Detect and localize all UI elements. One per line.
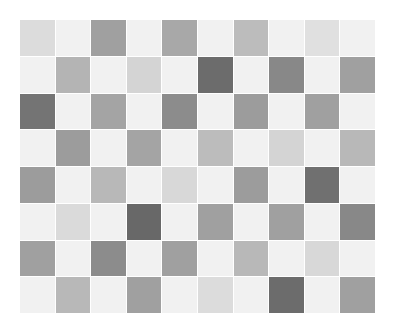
grid-cell [198, 277, 233, 313]
grid-cell [234, 57, 269, 93]
grid-cell [91, 241, 126, 277]
grid-cell [340, 204, 375, 240]
grid-cell [91, 94, 126, 130]
grid-cell [305, 167, 340, 203]
grid-cell [269, 20, 304, 56]
grid-cell [305, 277, 340, 313]
grid-cell [162, 57, 197, 93]
grid-cell [340, 241, 375, 277]
grid-cell [305, 130, 340, 166]
grid-cell [20, 130, 55, 166]
grid-cell [20, 20, 55, 56]
grid-cell [127, 57, 162, 93]
grid-cell [127, 277, 162, 313]
grid-cell [91, 20, 126, 56]
grid-cell [91, 277, 126, 313]
grid-cell [305, 241, 340, 277]
grid-cell [340, 20, 375, 56]
grid-cell [162, 167, 197, 203]
grid-cell [305, 20, 340, 56]
grid-cell [127, 130, 162, 166]
grid-cell [20, 94, 55, 130]
grid-cell [198, 57, 233, 93]
grid-cell [56, 20, 91, 56]
grid-cell [234, 130, 269, 166]
grid-cell [20, 277, 55, 313]
grid-cell [20, 241, 55, 277]
grid-cell [91, 57, 126, 93]
grid-cell [56, 204, 91, 240]
grid-cell [234, 94, 269, 130]
grid-cell [234, 20, 269, 56]
grid-cell [127, 167, 162, 203]
grid-cell [340, 57, 375, 93]
grid-cell [127, 204, 162, 240]
grid-cell [20, 57, 55, 93]
grid-cell [162, 241, 197, 277]
grid-cell [127, 94, 162, 130]
grid-cell [56, 241, 91, 277]
grid-cell [269, 130, 304, 166]
grid-cell [91, 204, 126, 240]
grid-cell [234, 167, 269, 203]
grid-cell [198, 241, 233, 277]
grid-cell [198, 94, 233, 130]
grid-cell [269, 57, 304, 93]
grid-cell [56, 57, 91, 93]
grid-cell [198, 167, 233, 203]
grid-cell [127, 20, 162, 56]
grid-cell [198, 204, 233, 240]
grid-cell [56, 167, 91, 203]
grayscale-grid [20, 20, 375, 313]
grid-cell [340, 277, 375, 313]
grid-cell [162, 20, 197, 56]
grid-cell [56, 277, 91, 313]
grid-cell [91, 167, 126, 203]
grid-cell [198, 130, 233, 166]
grid-cell [56, 94, 91, 130]
grid-cell [305, 57, 340, 93]
grid-cell [340, 167, 375, 203]
grid-cell [56, 130, 91, 166]
grid-cell [234, 241, 269, 277]
grid-cell [91, 130, 126, 166]
grid-cell [162, 94, 197, 130]
grid-cell [127, 241, 162, 277]
grid-cell [305, 204, 340, 240]
grid-cell [20, 204, 55, 240]
grid-cell [162, 130, 197, 166]
grid-cell [269, 241, 304, 277]
grid-cell [162, 204, 197, 240]
grid-cell [269, 167, 304, 203]
grid-cell [269, 204, 304, 240]
grid-cell [340, 130, 375, 166]
grid-cell [234, 204, 269, 240]
grid-cell [269, 94, 304, 130]
grid-cell [198, 20, 233, 56]
grid-cell [20, 167, 55, 203]
grid-cell [162, 277, 197, 313]
grid-cell [305, 94, 340, 130]
grid-cell [269, 277, 304, 313]
grid-cell [234, 277, 269, 313]
grid-cell [340, 94, 375, 130]
